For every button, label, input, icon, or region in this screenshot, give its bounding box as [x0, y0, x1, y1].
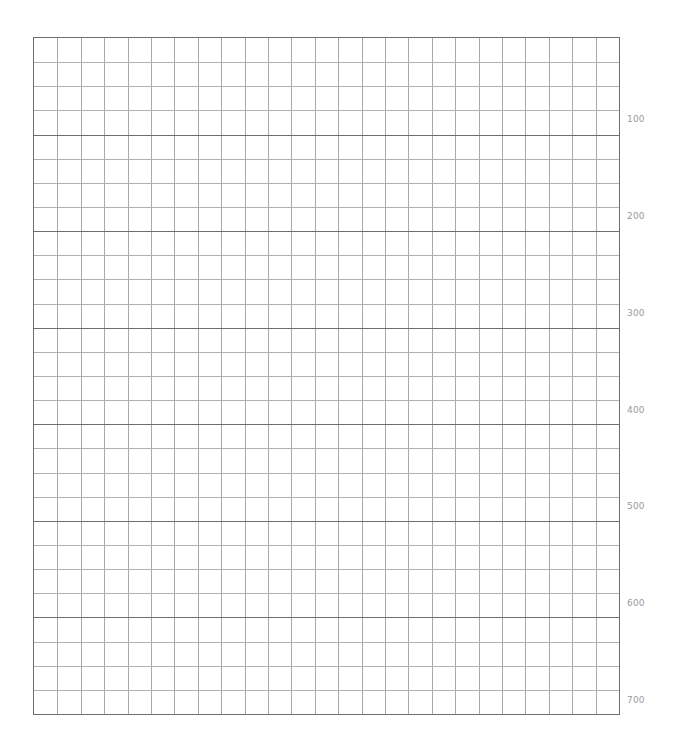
grid-row-line: [34, 376, 619, 377]
grid-row-line: [34, 448, 619, 449]
row-label-600: 600: [627, 598, 645, 608]
grid-row-line: [34, 569, 619, 570]
row-label-300: 300: [627, 308, 645, 318]
grid-row-line: [34, 110, 619, 111]
grid-row-line: [34, 304, 619, 305]
grid-row-line: [34, 690, 619, 691]
grid-row-line: [34, 593, 619, 594]
grid-row-line: [34, 473, 619, 474]
grid-row-line: [34, 86, 619, 87]
grid-row-line: [34, 666, 619, 667]
grid-row-line: [34, 352, 619, 353]
grid-major-row-line: [34, 328, 619, 329]
grid-row-line: [34, 279, 619, 280]
grid-row-line: [34, 642, 619, 643]
grid-row-line: [34, 255, 619, 256]
grid-row-line: [34, 545, 619, 546]
row-label-700: 700: [627, 695, 645, 705]
grid-row-line: [34, 159, 619, 160]
grid-major-row-line: [34, 617, 619, 618]
grid-row-line: [34, 62, 619, 63]
row-label-100: 100: [627, 114, 645, 124]
row-label-400: 400: [627, 405, 645, 415]
grid-major-row-line: [34, 231, 619, 232]
grid-major-row-line: [34, 135, 619, 136]
grid-row-line: [34, 183, 619, 184]
grid-row-line: [34, 497, 619, 498]
grid-major-row-line: [34, 424, 619, 425]
grid-paper: [33, 37, 620, 715]
grid-row-line: [34, 400, 619, 401]
grid-row-line: [34, 207, 619, 208]
row-label-500: 500: [627, 501, 645, 511]
row-label-200: 200: [627, 211, 645, 221]
grid-major-row-line: [34, 521, 619, 522]
